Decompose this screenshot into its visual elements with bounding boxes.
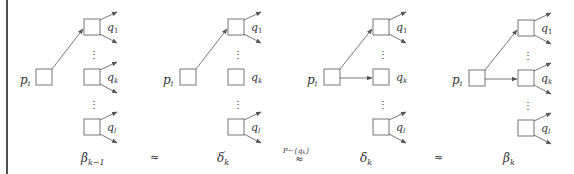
out-arrow-icon bbox=[389, 134, 406, 143]
qk-label: qk bbox=[107, 71, 118, 85]
target-node-q1-box bbox=[84, 19, 100, 35]
out-arrow-icon bbox=[244, 12, 261, 20]
figure-canvas: pi q1 qk ql ⋮ ⋮ βk−1 ≈ pi q1 qk ql bbox=[0, 0, 574, 174]
ql-label: ql bbox=[251, 121, 260, 135]
edge-pi-to-q1 bbox=[485, 30, 517, 70]
source-label: pi bbox=[307, 73, 318, 88]
target-node-qk-box bbox=[373, 69, 389, 85]
edge-pi-to-q1 bbox=[196, 29, 227, 69]
edge-pi-to-q1 bbox=[340, 29, 372, 69]
target-node-ql-box bbox=[518, 120, 534, 136]
diagram-svg: pi q1 qk ql ⋮ ⋮ βk−1 ≈ pi q1 qk ql bbox=[0, 0, 574, 174]
edge-pi-to-q1 bbox=[52, 29, 83, 69]
target-node-qk-box bbox=[518, 70, 534, 86]
diagram-delta-k: pi q1 qk ql ⋮ ⋮ δk bbox=[307, 12, 408, 167]
ql-label: ql bbox=[541, 122, 550, 136]
out-arrow-icon bbox=[534, 113, 551, 121]
caption-delta-prime-k: δk′ bbox=[217, 149, 229, 167]
out-arrow-icon bbox=[100, 12, 117, 20]
approx-symbol-1: ≈ bbox=[150, 151, 159, 164]
out-arrow-icon bbox=[534, 35, 551, 44]
source-node-box bbox=[180, 69, 196, 85]
target-node-qk-box bbox=[228, 69, 244, 85]
ql-label: ql bbox=[396, 121, 405, 135]
source-label: pi bbox=[20, 73, 31, 88]
approx-restricted-relation: P−{qk} ≈ bbox=[282, 147, 310, 164]
source-node-box bbox=[469, 70, 485, 86]
diagram-beta-k-minus-1: pi q1 qk ql ⋮ ⋮ βk−1 bbox=[20, 12, 119, 167]
qk-label: qk bbox=[251, 71, 262, 85]
out-arrow-icon bbox=[100, 112, 117, 120]
target-node-q1-box bbox=[228, 19, 244, 35]
q1-label: q1 bbox=[251, 21, 263, 35]
out-arrow-icon bbox=[100, 62, 117, 70]
source-node-box bbox=[36, 69, 52, 85]
vertical-ellipsis: ⋮ bbox=[233, 49, 243, 60]
caption-beta-k-minus-1: βk−1 bbox=[80, 151, 105, 167]
vertical-ellipsis: ⋮ bbox=[89, 49, 99, 60]
out-arrow-icon bbox=[534, 13, 551, 21]
approx-symbol-2: ≈ bbox=[295, 153, 303, 164]
q1-label: q1 bbox=[396, 21, 408, 35]
target-node-qk-box bbox=[84, 69, 100, 85]
qk-label: qk bbox=[396, 71, 407, 85]
target-node-q1-box bbox=[518, 20, 534, 36]
out-arrow-icon bbox=[389, 112, 406, 120]
qk-label: qk bbox=[541, 72, 552, 86]
source-label: pi bbox=[163, 73, 174, 88]
out-arrow-icon bbox=[534, 85, 551, 94]
out-arrow-icon bbox=[534, 135, 551, 144]
diagram-delta-prime-k: pi q1 qk ql ⋮ ⋮ δk′ bbox=[163, 12, 263, 167]
source-node-box bbox=[324, 69, 340, 85]
source-label: pi bbox=[452, 73, 463, 88]
vertical-ellipsis: ⋮ bbox=[233, 99, 243, 110]
out-arrow-icon bbox=[244, 134, 261, 143]
target-node-ql-box bbox=[84, 119, 100, 135]
target-node-ql-box bbox=[228, 119, 244, 135]
vertical-ellipsis: ⋮ bbox=[378, 99, 388, 110]
vertical-ellipsis: ⋮ bbox=[89, 99, 99, 110]
out-arrow-icon bbox=[389, 34, 406, 43]
out-arrow-icon bbox=[100, 134, 117, 143]
vertical-ellipsis: ⋮ bbox=[523, 100, 533, 111]
target-node-q1-box bbox=[373, 19, 389, 35]
out-arrow-icon bbox=[100, 84, 117, 93]
vertical-ellipsis: ⋮ bbox=[523, 50, 533, 61]
out-arrow-icon bbox=[389, 12, 406, 20]
out-arrow-icon bbox=[244, 112, 261, 120]
ql-label: ql bbox=[107, 121, 116, 135]
caption-delta-k: δk bbox=[360, 151, 372, 167]
out-arrow-icon bbox=[534, 63, 551, 71]
target-node-ql-box bbox=[373, 119, 389, 135]
caption-beta-k: βk bbox=[502, 151, 515, 167]
vertical-ellipsis: ⋮ bbox=[378, 49, 388, 60]
approx-symbol-3: ≈ bbox=[434, 151, 443, 164]
diagram-beta-k: pi q1 qk ql ⋮ ⋮ βk bbox=[452, 13, 553, 167]
out-arrow-icon bbox=[100, 34, 117, 43]
q1-label: q1 bbox=[541, 22, 553, 36]
out-arrow-icon bbox=[244, 34, 261, 43]
q1-label: q1 bbox=[107, 21, 119, 35]
